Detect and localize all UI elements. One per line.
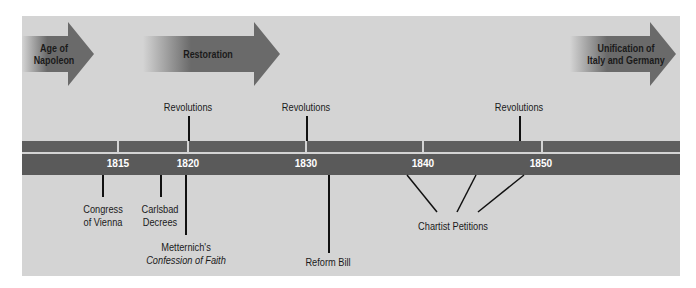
chartist-connectors — [0, 0, 696, 288]
connector-line — [407, 175, 437, 212]
connector-line — [457, 175, 476, 212]
connector-line — [478, 175, 524, 212]
event-chartist-petitions: Chartist Petitions — [418, 220, 488, 233]
